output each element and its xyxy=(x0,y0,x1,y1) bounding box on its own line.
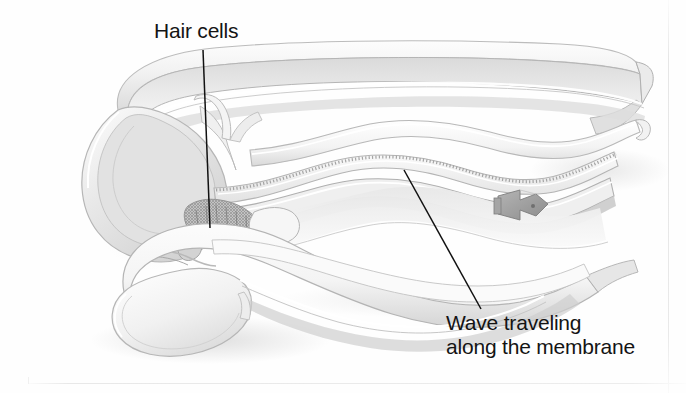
hair-cells-label: Hair cells xyxy=(154,19,238,43)
wave-label-line1: Wave traveling xyxy=(446,311,581,334)
wave-label-line2: along the membrane xyxy=(446,335,635,359)
hair-cells-label-text: Hair cells xyxy=(154,19,238,42)
figure-canvas: Hair cells Wave traveling along the memb… xyxy=(0,0,686,393)
wave-label: Wave traveling along the membrane xyxy=(446,311,635,359)
